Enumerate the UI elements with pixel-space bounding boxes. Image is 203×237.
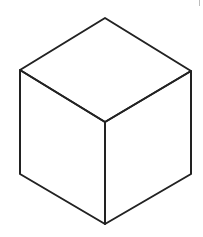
cube-drawing	[0, 0, 203, 237]
cube-right-face	[105, 71, 191, 224]
corner-artifact	[199, 0, 200, 6]
cube-top-face	[20, 18, 191, 122]
cube-left-face	[20, 70, 105, 224]
cube-diagram	[0, 0, 203, 237]
